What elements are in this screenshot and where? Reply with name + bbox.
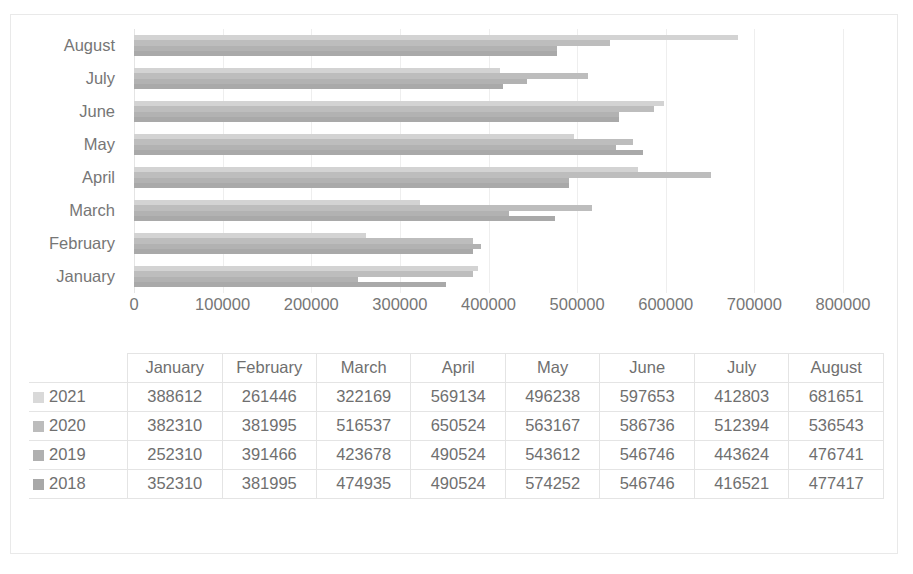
table-cell-2018-march: 474935 (316, 470, 410, 499)
table-cell-2021-july: 412803 (694, 383, 788, 412)
table-cell-2019-february: 391466 (222, 441, 316, 470)
table-row: 2019252310391466423678490524543612546746… (29, 441, 884, 470)
table-cell-2018-may: 574252 (505, 470, 599, 499)
table-cell-2019-july: 443624 (694, 441, 788, 470)
table-cell-2019-may: 543612 (505, 441, 599, 470)
table-cell-2021-august: 681651 (789, 383, 884, 412)
category-label-may: May (11, 128, 123, 161)
value-axis-labels: 0100000200000300000400000500000600000700… (134, 295, 843, 319)
table-cell-2020-february: 381995 (222, 412, 316, 441)
bar-group-april (134, 161, 843, 194)
table-row: 2021388612261446322169569134496238597653… (29, 383, 884, 412)
table-cell-2018-february: 381995 (222, 470, 316, 499)
table-cell-2019-august: 476741 (789, 441, 884, 470)
table-cell-2019-april: 490524 (411, 441, 505, 470)
table-cell-2020-july: 512394 (694, 412, 788, 441)
table-cell-2019-march: 423678 (316, 441, 410, 470)
xtick-800000: 800000 (815, 295, 870, 314)
table-row: 2020382310381995516537650524563167586736… (29, 412, 884, 441)
category-label-february: February (11, 227, 123, 260)
table-corner-cell (29, 354, 128, 383)
bar-march-2018[interactable] (134, 216, 555, 221)
bar-july-2018[interactable] (134, 84, 503, 89)
table-cell-2020-august: 536543 (789, 412, 884, 441)
table-cell-2021-february: 261446 (222, 383, 316, 412)
xtick-200000: 200000 (284, 295, 339, 314)
category-axis-labels: AugustJulyJuneMayAprilMarchFebruaryJanua… (11, 29, 123, 293)
bar-group-june (134, 95, 843, 128)
table-cell-2018-april: 490524 (411, 470, 505, 499)
legend-swatch-2021-icon (33, 392, 44, 403)
bar-groups (134, 29, 843, 293)
table-cell-2020-june: 586736 (600, 412, 694, 441)
category-label-april: April (11, 161, 123, 194)
chart-container[interactable]: AugustJulyJuneMayAprilMarchFebruaryJanua… (10, 14, 898, 554)
bar-april-2018[interactable] (134, 183, 569, 188)
category-label-june: June (11, 95, 123, 128)
bar-may-2018[interactable] (134, 150, 643, 155)
xtick-0: 0 (129, 295, 138, 314)
table-cell-2018-june: 546746 (600, 470, 694, 499)
legend-swatch-2018-icon (33, 479, 44, 490)
table-row: 2018352310381995474935490524574252546746… (29, 470, 884, 499)
bar-group-august (134, 29, 843, 62)
xtick-100000: 100000 (195, 295, 250, 314)
table-cell-2021-april: 569134 (411, 383, 505, 412)
bar-group-july (134, 62, 843, 95)
table-col-header-july: July (694, 354, 788, 383)
category-label-july: July (11, 62, 123, 95)
bar-group-february (134, 227, 843, 260)
table-series-label-2019: 2019 (29, 441, 128, 470)
xtick-300000: 300000 (372, 295, 427, 314)
category-label-january: January (11, 260, 123, 293)
xtick-600000: 600000 (638, 295, 693, 314)
plot-area[interactable] (134, 29, 843, 293)
legend-swatch-2020-icon (33, 421, 44, 432)
xtick-700000: 700000 (727, 295, 782, 314)
bar-february-2018[interactable] (134, 249, 473, 254)
table-cell-2021-march: 322169 (316, 383, 410, 412)
table-col-header-march: March (316, 354, 410, 383)
category-label-march: March (11, 194, 123, 227)
gridline-800000 (843, 29, 844, 293)
category-label-august: August (11, 29, 123, 62)
bar-june-2018[interactable] (134, 117, 619, 122)
table-cell-2019-january: 252310 (128, 441, 222, 470)
table-body: 2021388612261446322169569134496238597653… (29, 383, 884, 499)
table-cell-2020-may: 563167 (505, 412, 599, 441)
plot-area-wrapper: AugustJulyJuneMayAprilMarchFebruaryJanua… (11, 15, 899, 315)
bar-group-may (134, 128, 843, 161)
bar-january-2018[interactable] (134, 282, 446, 287)
xtick-400000: 400000 (461, 295, 516, 314)
bar-group-january (134, 260, 843, 293)
bar-group-march (134, 194, 843, 227)
bar-august-2018[interactable] (134, 51, 557, 56)
table-col-header-april: April (411, 354, 505, 383)
table-cell-2021-may: 496238 (505, 383, 599, 412)
table-cell-2021-january: 388612 (128, 383, 222, 412)
legend-swatch-2019-icon (33, 450, 44, 461)
table-col-header-june: June (600, 354, 694, 383)
table-cell-2020-january: 382310 (128, 412, 222, 441)
table-cell-2018-august: 477417 (789, 470, 884, 499)
table-col-header-may: May (505, 354, 599, 383)
table-series-label-2021: 2021 (29, 383, 128, 412)
data-table[interactable]: JanuaryFebruaryMarchAprilMayJuneJulyAugu… (29, 353, 884, 499)
table-cell-2018-january: 352310 (128, 470, 222, 499)
table-col-header-august: August (789, 354, 884, 383)
cropped-title-text (0, 0, 913, 4)
table-cell-2018-july: 416521 (694, 470, 788, 499)
table-col-header-january: January (128, 354, 222, 383)
table-cell-2019-june: 546746 (600, 441, 694, 470)
table-cell-2020-april: 650524 (411, 412, 505, 441)
table-col-header-february: February (222, 354, 316, 383)
table-cell-2020-march: 516537 (316, 412, 410, 441)
xtick-500000: 500000 (550, 295, 605, 314)
table-series-label-2018: 2018 (29, 470, 128, 499)
table-cell-2021-june: 597653 (600, 383, 694, 412)
table-header-row: JanuaryFebruaryMarchAprilMayJuneJulyAugu… (29, 354, 884, 383)
table-series-label-2020: 2020 (29, 412, 128, 441)
